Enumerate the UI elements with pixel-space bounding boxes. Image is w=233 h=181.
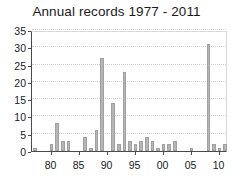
y-axis: 05101520253035 [0,31,31,152]
x-tick-label: 80 [45,160,57,171]
bar [95,130,98,151]
y-tick-label: 5 [20,129,26,140]
chart-title: Annual records 1977 - 2011 [0,4,233,19]
bar [111,103,114,151]
bar [173,141,176,151]
bar [55,123,58,151]
y-tick-label: 0 [20,147,26,158]
bar [207,44,210,151]
bar [50,144,53,151]
bar [33,148,36,151]
bar [156,148,159,151]
plot-area [31,31,227,152]
x-tick-label: 10 [213,160,225,171]
bar [83,137,86,151]
bar [134,144,137,151]
bar [67,141,70,151]
x-tick-mark [51,152,52,155]
y-tick-label: 15 [14,95,26,106]
bar [151,141,154,151]
bar [61,141,64,151]
bar [89,148,92,151]
x-tick-label: 00 [157,160,169,171]
x-tick-mark [107,152,108,155]
bar [123,72,126,152]
x-tick-mark [163,152,164,155]
x-tick-mark [135,152,136,155]
bar [100,58,103,151]
x-tick-mark [79,152,80,155]
bar [218,148,221,151]
bar [145,137,148,151]
chart-figure: Annual records 1977 - 2011 0510152025303… [0,0,233,181]
x-tick-mark [219,152,220,155]
x-tick-mark [191,152,192,155]
bar [128,141,131,151]
x-tick-label: 95 [129,160,141,171]
x-tick-label: 90 [101,160,113,171]
x-axis: 80859095000510 [31,152,227,180]
bar [190,148,193,151]
bar [162,144,165,151]
y-tick-label: 35 [14,26,26,37]
y-tick-label: 30 [14,43,26,54]
bar-series [32,32,226,151]
gridline [32,29,226,30]
bar [117,144,120,151]
x-tick-label: 05 [185,160,197,171]
bar [167,144,170,151]
bar [223,144,226,151]
y-tick-label: 20 [14,78,26,89]
y-tick-label: 10 [14,112,26,123]
bar [212,144,215,151]
y-tick-label: 25 [14,60,26,71]
x-tick-label: 85 [73,160,85,171]
bar [139,141,142,151]
